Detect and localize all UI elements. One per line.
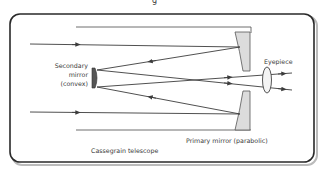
arrow-icon [224,77,230,78]
cassegrain-diagram: g Secondary mirror (convex) Eyepiece Pri… [0,0,321,175]
secondary-label-line3: (convex) [61,80,88,87]
eyepiece-lens [263,67,272,93]
primary-mirror-label: Primary mirror (parabolic) [186,137,268,145]
arrow-icon [278,89,284,90]
secondary-mirror [92,68,97,88]
secondary-label-line2: mirror [69,71,89,78]
caption: Cassegrain telescope [91,147,158,155]
secondary-label-line1: Secondary [55,62,89,70]
arrow-icon [224,83,230,84]
title-fragment: g [152,0,157,5]
eyepiece-label: Eyepiece [264,58,293,66]
